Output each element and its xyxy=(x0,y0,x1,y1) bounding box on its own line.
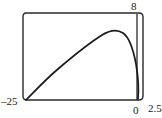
x-axis-min-label: –25 xyxy=(1,96,18,107)
data-curve xyxy=(26,31,138,100)
plot-figure: 8 –25 0 2.5 xyxy=(0,0,162,118)
y-axis-max-label: 8 xyxy=(131,1,137,12)
x-axis-origin-label: 0 xyxy=(133,105,139,116)
plot-frame xyxy=(23,13,143,100)
x-axis-max-label: 2.5 xyxy=(148,103,162,114)
plot-canvas xyxy=(0,0,162,118)
